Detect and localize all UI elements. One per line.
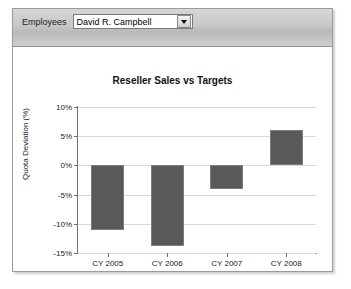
y-tick-mark [74, 107, 78, 108]
y-tick-mark [74, 224, 78, 225]
parameter-label-employees: Employees [22, 17, 67, 27]
y-tick-label: 10% [56, 103, 72, 112]
chart-bar[interactable] [151, 165, 184, 246]
plot-area: 10%5%0%-5%-10%-15%CY 2005CY 2006CY 2007C… [78, 107, 316, 253]
x-tick-label: CY 2008 [271, 259, 302, 268]
x-tick-label: CY 2007 [211, 259, 242, 268]
y-tick-mark [74, 195, 78, 196]
x-tick-mark [286, 253, 287, 257]
chart-bar[interactable] [210, 165, 243, 188]
chart-bar[interactable] [91, 165, 124, 229]
employees-dropdown-value: David R. Campbell [74, 17, 177, 27]
chart-bar[interactable] [270, 130, 303, 165]
gridline [78, 107, 316, 108]
gridline [78, 253, 316, 254]
y-tick-label: 0% [60, 161, 72, 170]
parameter-employees: Employees David R. Campbell [22, 14, 193, 29]
parameter-toolbar: Employees David R. Campbell [13, 9, 332, 47]
x-tick-mark [227, 253, 228, 257]
x-tick-mark [108, 253, 109, 257]
y-axis-title: Quota Deviation (%) [21, 108, 30, 180]
y-tick-label: -10% [53, 219, 72, 228]
x-tick-label: CY 2006 [152, 259, 183, 268]
chart-title: Reseller Sales vs Targets [13, 75, 332, 86]
chart-canvas: Reseller Sales vs Targets Quota Deviatio… [13, 47, 332, 271]
chevron-down-icon[interactable] [177, 15, 191, 28]
report-viewer-frame: Employees David R. Campbell Reseller Sal… [12, 8, 333, 272]
x-tick-mark [167, 253, 168, 257]
caret-glyph [181, 20, 187, 24]
y-tick-label: -5% [58, 190, 72, 199]
y-tick-mark [74, 136, 78, 137]
y-tick-mark [74, 165, 78, 166]
y-tick-label: 5% [60, 132, 72, 141]
x-tick-label: CY 2005 [92, 259, 123, 268]
employees-dropdown[interactable]: David R. Campbell [73, 14, 193, 29]
y-tick-mark [74, 253, 78, 254]
y-tick-label: -15% [53, 249, 72, 258]
